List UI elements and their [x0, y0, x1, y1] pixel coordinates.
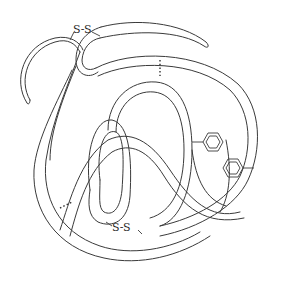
teardrop-loop — [88, 120, 130, 224]
inner-loop — [108, 82, 192, 226]
hydrogen-bond-lower-left — [60, 202, 72, 208]
disulfide-bond-label-bottom: S-S — [112, 222, 130, 233]
disulfide-link-top-right — [92, 32, 100, 36]
benzene-ring-icon — [223, 159, 254, 177]
protein-tertiary-structure-diagram — [0, 0, 284, 281]
disulfide-bond-label-top: S-S — [73, 24, 91, 35]
upper-outer-loop — [96, 56, 257, 236]
disulfide-link-bottom-right — [138, 230, 142, 234]
benzene-ring-icon — [192, 133, 223, 151]
